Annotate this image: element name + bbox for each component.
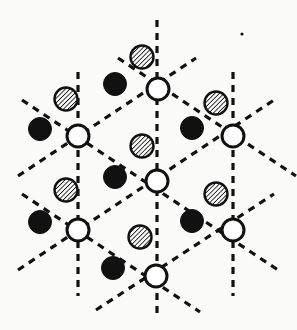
open-circle-node: [67, 219, 89, 241]
ink-speck-group: [240, 32, 243, 35]
filled-black-atom: [29, 211, 52, 234]
lattice-figure: [0, 0, 297, 330]
open-circle-node: [145, 265, 167, 287]
filled-black-atom: [29, 118, 52, 141]
filled-black-atom: [104, 166, 127, 189]
lattice-canvas: [0, 0, 297, 330]
filled-black-atom: [181, 117, 204, 140]
ink-speck: [240, 32, 243, 35]
filled-black-atom: [181, 210, 204, 233]
open-circle-node: [222, 125, 244, 147]
filled-black-atom: [104, 73, 127, 96]
hatched-atom: [55, 88, 78, 111]
filled-black-atom: [102, 257, 125, 280]
hatched-atom: [205, 92, 228, 115]
open-circle-node: [147, 78, 169, 100]
hatched-atom: [131, 135, 154, 158]
hatched-atom: [205, 183, 228, 206]
open-circle-node: [222, 219, 244, 241]
hatched-atom: [129, 226, 152, 249]
open-circle-node: [146, 170, 168, 192]
open-circle-node: [67, 125, 89, 147]
hatched-atom: [55, 179, 78, 202]
hatched-atom: [131, 46, 154, 69]
